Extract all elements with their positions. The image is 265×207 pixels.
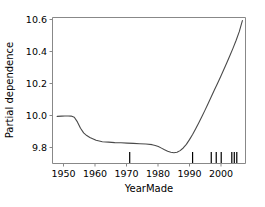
y-tick-label: 10.2 [26,78,47,89]
x-tick-label: 1970 [114,168,138,179]
chart-canvas: 9.8 10.0 10.2 10.4 10.6 1950 1960 1970 1… [0,0,265,207]
x-tick-label: 2000 [209,168,233,179]
y-axis-tick-labels: 9.8 10.0 10.2 10.4 10.6 [26,14,47,153]
y-tick-label: 9.8 [32,142,47,153]
x-tick-label: 1950 [51,168,75,179]
axes-frame [53,18,246,164]
partial-dependence-line [57,21,242,153]
x-tick-label: 1960 [83,168,107,179]
x-tick-label: 1990 [177,168,201,179]
deciles-rug [130,152,237,163]
y-tick-label: 10.0 [26,110,47,121]
y-tick-label: 10.6 [26,14,47,25]
partial-dependence-chart: 9.8 10.0 10.2 10.4 10.6 1950 1960 1970 1… [0,0,265,207]
x-tick-label: 1980 [146,168,170,179]
x-axis-tick-labels: 1950 1960 1970 1980 1990 2000 [51,168,233,179]
x-axis-title: YearMade [124,183,173,194]
y-axis-title: Partial dependence [4,42,15,138]
y-tick-label: 10.4 [26,46,47,57]
